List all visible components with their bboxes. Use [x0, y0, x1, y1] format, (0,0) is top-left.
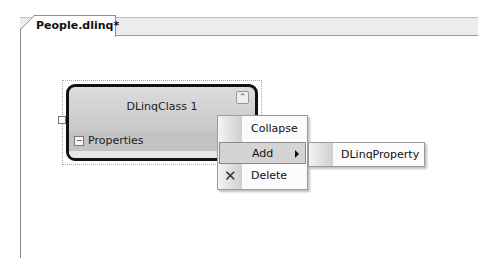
- add-submenu: DLinqProperty: [308, 142, 425, 167]
- context-menu: Collapse Add ✕ Delete: [217, 115, 308, 190]
- menu-item-delete[interactable]: ✕ Delete: [219, 165, 306, 187]
- menu-item-label: Add: [252, 147, 273, 160]
- submenu-item-dlinqproperty[interactable]: DLinqProperty: [341, 148, 419, 161]
- menu-item-label: Delete: [251, 169, 287, 182]
- document-border: [20, 36, 21, 258]
- submenu-arrow-icon: [295, 150, 299, 158]
- tab-slant-edge: [20, 15, 35, 30]
- menu-item-label: Collapse: [251, 122, 298, 135]
- properties-label: Properties: [88, 134, 144, 147]
- connector-handle[interactable]: [58, 116, 66, 124]
- class-title: DLinqClass 1: [69, 100, 255, 113]
- delete-x-icon: ✕: [224, 167, 237, 185]
- menu-item-add[interactable]: Add: [219, 142, 306, 164]
- collapse-chevron-icon[interactable]: ⌃: [236, 91, 249, 104]
- menu-gutter: [309, 143, 333, 166]
- minus-toggle-icon[interactable]: −: [74, 136, 84, 146]
- menu-item-collapse[interactable]: Collapse: [219, 118, 306, 140]
- tab-label: People.dlinq*: [36, 19, 119, 32]
